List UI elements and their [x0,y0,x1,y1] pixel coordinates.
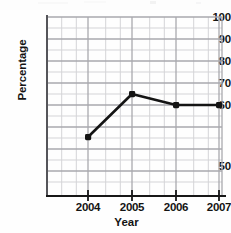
data-point-2004 [85,134,91,140]
major-vertical-gridlines [88,17,219,196]
x-axis-title: Year [0,216,231,228]
x-tick-label-2005: 2005 [109,201,155,213]
line-chart-figure: Percentage 100 90 80 70 60 50 [0,0,231,233]
data-point-2007 [216,102,222,108]
data-point-2006 [173,102,179,108]
plot-area [0,0,231,233]
x-axis-title-text: Year [114,216,138,228]
x-tick-label-2007: 2007 [196,201,231,213]
x-tick-label-2006: 2006 [153,201,199,213]
minor-vertical-gridlines [62,17,209,196]
x-tick-label-2004: 2004 [65,201,111,213]
data-point-2005 [129,91,135,97]
